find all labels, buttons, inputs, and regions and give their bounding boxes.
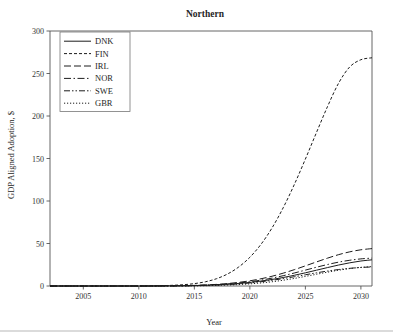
y-tick-label: 100 — [32, 197, 44, 206]
legend-label-irl[interactable]: IRL — [95, 61, 109, 71]
x-tick-label: 2015 — [186, 292, 202, 301]
legend-label-swe[interactable]: SWE — [95, 86, 113, 96]
y-tick-label: 300 — [32, 27, 44, 36]
y-tick-label: 0 — [40, 282, 44, 291]
y-axis-title: GDP Aligned Adoption, $ — [6, 111, 16, 199]
legend-label-gbr[interactable]: GBR — [95, 98, 113, 108]
x-tick-label: 2005 — [75, 292, 91, 301]
chart-figure: Northern 200520102015202020252030 050100… — [0, 0, 393, 335]
figure-background — [0, 0, 393, 335]
legend-label-dnk[interactable]: DNK — [95, 36, 114, 46]
y-tick-label: 150 — [32, 155, 44, 164]
x-tick-label: 2010 — [131, 292, 147, 301]
x-tick-label: 2030 — [353, 292, 369, 301]
x-tick-label: 2025 — [297, 292, 313, 301]
legend-label-nor[interactable]: NOR — [95, 73, 113, 83]
chart-title: Northern — [186, 9, 225, 19]
y-tick-label: 200 — [32, 112, 44, 121]
y-tick-label: 250 — [32, 70, 44, 79]
chart-legend[interactable]: DNKFINIRLNORSWEGBR — [60, 32, 130, 111]
x-tick-label: 2020 — [242, 292, 258, 301]
x-axis-title: Year — [206, 317, 222, 327]
line-chart: Northern 200520102015202020252030 050100… — [0, 0, 393, 335]
y-tick-label: 50 — [36, 240, 44, 249]
legend-label-fin[interactable]: FIN — [95, 49, 109, 59]
